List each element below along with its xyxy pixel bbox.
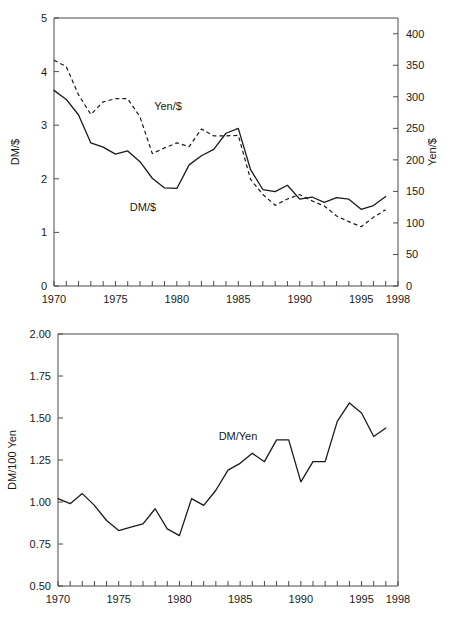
series-line-dm — [54, 90, 386, 209]
y-axis-left-tick-label: 1 — [41, 226, 47, 238]
series-annotation-dm-per-yen: DM/Yen — [219, 430, 258, 442]
plot-area: 19701975198019851990199519980.500.751.00… — [6, 328, 410, 605]
y-axis-tick-label: 0.50 — [30, 580, 51, 592]
y-axis-right-title: Yen/$ — [426, 138, 438, 166]
y-axis-title: DM/100 Yen — [6, 430, 18, 490]
y-axis-right-tick-label: 250 — [406, 122, 424, 134]
series-annotation-dm-per-dollar: DM/$ — [130, 201, 156, 213]
y-axis-tick-label: 1.75 — [30, 370, 51, 382]
x-axis-tick-label: 1995 — [349, 293, 373, 305]
series-line-dm-per-yen — [58, 403, 386, 536]
bottom-chart-figure: 19701975198019851990199519980.500.751.00… — [0, 320, 452, 638]
x-axis-tick-label: 1998 — [386, 293, 410, 305]
x-axis-tick-label: 1995 — [349, 593, 373, 605]
y-axis-right-tick-label: 300 — [406, 91, 424, 103]
y-axis-left-tick-label: 3 — [41, 119, 47, 131]
x-axis-tick-label: 1980 — [167, 593, 191, 605]
y-axis-tick-label: 0.75 — [30, 538, 51, 550]
y-axis-tick-label: 1.50 — [30, 412, 51, 424]
y-axis-right-tick-label: 150 — [406, 185, 424, 197]
x-axis-tick-label: 1985 — [226, 293, 250, 305]
x-axis-tick-label: 1970 — [46, 593, 70, 605]
y-axis-right-tick-label: 400 — [406, 28, 424, 40]
y-axis-right-tick-label: 100 — [406, 217, 424, 229]
x-axis-tick-label: 1975 — [103, 293, 127, 305]
x-axis-tick-label: 1975 — [106, 593, 130, 605]
y-axis-left-title: DM/$ — [9, 139, 21, 165]
y-axis-tick-label: 2.00 — [30, 328, 51, 340]
x-axis-tick-label: 1998 — [386, 593, 410, 605]
y-axis-left-tick-label: 0 — [41, 280, 47, 292]
y-axis-left-tick-label: 2 — [41, 173, 47, 185]
y-axis-right-tick-label: 350 — [406, 59, 424, 71]
y-axis-left-tick-label: 4 — [41, 66, 47, 78]
y-axis-left-tick-label: 5 — [41, 12, 47, 24]
x-axis-tick-label: 1970 — [42, 293, 66, 305]
series-annotation-yen-per-dollar: Yen/$ — [154, 100, 182, 112]
x-axis-tick-label: 1990 — [289, 593, 313, 605]
top-chart-figure: 1970197519801985199019951998012345050100… — [0, 0, 452, 320]
plot-area: 1970197519801985199019951998012345050100… — [9, 12, 438, 305]
y-axis-right-tick-label: 200 — [406, 154, 424, 166]
y-axis-tick-label: 1.25 — [30, 454, 51, 466]
x-axis-tick-label: 1990 — [287, 293, 311, 305]
y-axis-right-tick-label: 50 — [406, 248, 418, 260]
y-axis-tick-label: 1.00 — [30, 496, 51, 508]
y-axis-right-tick-label: 0 — [406, 280, 412, 292]
series-line-yen — [54, 60, 386, 226]
x-axis-tick-label: 1980 — [165, 293, 189, 305]
dm-per-100-yen-chart: 19701975198019851990199519980.500.751.00… — [0, 320, 452, 638]
dm-yen-per-dollar-chart: 1970197519801985199019951998012345050100… — [0, 0, 452, 320]
x-axis-tick-label: 1985 — [228, 593, 252, 605]
